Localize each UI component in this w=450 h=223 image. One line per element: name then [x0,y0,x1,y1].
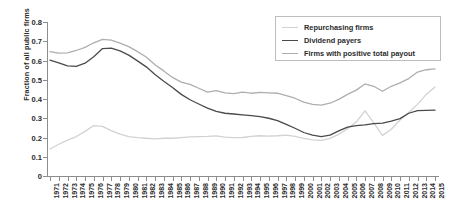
x-tick-mark [260,177,261,181]
x-tick-mark [76,177,77,181]
y-tick-label: 0.2 [8,133,42,142]
x-tick-label: 1998 [289,183,296,199]
y-tick-mark [43,176,48,177]
x-tick-mark [120,177,121,181]
legend-swatch [282,40,298,41]
y-tick-label: 0.8 [8,18,42,27]
x-tick-label: 1976 [97,183,104,199]
x-tick-label: 1982 [149,183,156,199]
x-tick-mark [269,177,270,181]
x-tick-label: 2003 [333,183,340,199]
x-tick-mark [243,177,244,181]
x-tick-label: 1999 [298,183,305,199]
x-tick-mark [383,177,384,181]
x-tick-mark [339,177,340,181]
x-tick-mark [321,177,322,181]
x-tick-mark [348,177,349,181]
x-tick-label: 1988 [202,183,209,199]
x-tick-label: 1987 [193,183,200,199]
x-tick-mark [391,177,392,181]
x-tick-mark [103,177,104,181]
y-tick-label: 0.7 [8,37,42,46]
x-tick-label: 1979 [123,183,130,199]
x-tick-mark [278,177,279,181]
x-tick-label: 2000 [307,183,314,199]
legend-item[interactable]: Firms with positive total payout [282,47,434,60]
x-tick-mark [295,177,296,181]
x-tick-label: 2006 [359,183,366,199]
x-tick-mark [234,177,235,181]
x-tick-mark [94,177,95,181]
x-tick-label: 2011 [403,183,410,198]
x-tick-mark [181,177,182,181]
legend-swatch [282,53,298,54]
x-tick-label: 1990 [219,183,226,199]
x-tick-mark [146,177,147,181]
x-tick-mark [85,177,86,181]
legend-item[interactable]: Dividend payers [282,34,434,47]
x-tick-label: 1993 [246,183,253,199]
x-tick-label: 2009 [386,183,393,199]
x-tick-mark [173,177,174,181]
x-tick-mark [50,177,51,181]
x-tick-label: 1992 [237,183,244,199]
x-tick-label: 1984 [167,183,174,199]
y-tick-label: 0 [8,172,42,181]
x-tick-mark [330,177,331,181]
x-tick-label: 1997 [281,183,288,199]
x-tick-label: 1996 [272,183,279,199]
x-tick-mark [304,177,305,181]
x-tick-label: 2012 [412,183,419,199]
y-tick-label: 0.6 [8,56,42,65]
x-tick-mark [190,177,191,181]
x-tick-label: 1978 [114,183,121,199]
x-tick-label: 1989 [211,183,218,199]
x-tick-label: 2008 [377,183,384,199]
x-tick-mark [138,177,139,181]
x-tick-label: 1971 [53,183,60,199]
x-tick-label: 2015 [438,183,445,199]
x-tick-mark [251,177,252,181]
y-tick-label: 0.5 [8,75,42,84]
x-tick-mark [365,177,366,181]
x-tick-mark [216,177,217,181]
x-tick-label: 2005 [351,183,358,199]
y-tick-label: 0.3 [8,114,42,123]
x-tick-label: 2013 [421,183,428,199]
x-tick-mark [435,177,436,181]
x-tick-label: 1986 [184,183,191,199]
x-tick-mark [400,177,401,181]
x-tick-mark [129,177,130,181]
x-tick-label: 1975 [88,183,95,199]
x-tick-mark [208,177,209,181]
x-tick-mark [426,177,427,181]
x-tick-mark [164,177,165,181]
x-tick-mark [59,177,60,181]
legend-label: Dividend payers [304,36,361,45]
y-axis-tick-labels: 00.10.20.30.40.50.60.70.8 [6,0,42,223]
series-line [50,87,435,149]
legend-item[interactable]: Repurchasing firms [282,21,434,34]
x-tick-label: 2004 [342,183,349,199]
legend-label: Firms with positive total payout [304,49,415,58]
x-tick-mark [418,177,419,181]
legend-swatch [282,27,298,28]
x-tick-label: 1991 [228,183,235,199]
x-tick-label: 1973 [71,183,78,199]
x-tick-label: 1980 [132,183,139,199]
x-tick-label: 1977 [106,183,113,199]
x-tick-label: 1985 [176,183,183,199]
x-tick-label: 1981 [141,183,148,199]
x-tick-label: 2002 [324,183,331,199]
x-tick-mark [155,177,156,181]
x-tick-label: 2007 [368,183,375,199]
x-tick-label: 2014 [429,183,436,199]
x-tick-mark [286,177,287,181]
x-tick-label: 1972 [62,183,69,199]
x-tick-mark [225,177,226,181]
x-tick-mark [409,177,410,181]
x-tick-label: 1995 [263,183,270,199]
x-tick-mark [199,177,200,181]
legend-label: Repurchasing firms [304,23,373,32]
x-tick-mark [356,177,357,181]
